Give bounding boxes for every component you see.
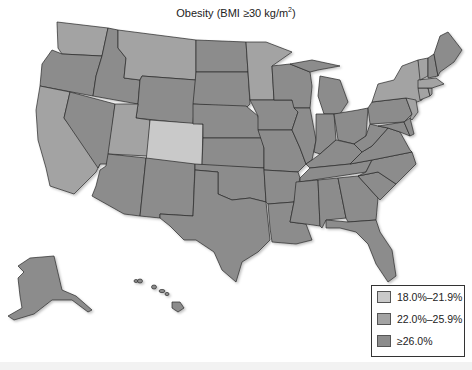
legend-swatch-light xyxy=(377,291,391,303)
legend-label-medium: 22.0%–25.9% xyxy=(397,313,462,325)
state-ak xyxy=(8,256,92,320)
state-wy xyxy=(136,76,196,124)
state-ny xyxy=(372,60,424,104)
legend-item-medium: 22.0%–25.9% xyxy=(372,308,464,330)
state-hi xyxy=(134,279,184,312)
state-wa xyxy=(57,22,108,56)
bottom-strip xyxy=(0,362,472,370)
state-fl xyxy=(326,220,396,282)
state-nd xyxy=(196,40,248,72)
legend-item-dark: ≥26.0% xyxy=(372,330,464,352)
state-me xyxy=(434,32,462,76)
legend-swatch-medium xyxy=(377,313,391,325)
legend-swatch-dark xyxy=(377,335,391,347)
state-ne xyxy=(193,104,262,138)
state-mi xyxy=(318,76,348,114)
state-ks xyxy=(202,138,264,168)
state-mt xyxy=(118,30,196,80)
legend-label-dark: ≥26.0% xyxy=(397,335,433,347)
legend-label-light: 18.0%–21.9% xyxy=(397,291,462,303)
legend-item-light: 18.0%–21.9% xyxy=(372,286,464,308)
state-ma xyxy=(418,78,444,88)
state-nm xyxy=(140,158,195,218)
state-co xyxy=(146,120,203,165)
state-sd xyxy=(193,72,250,108)
state-vt xyxy=(418,58,428,80)
map-legend: 18.0%–21.9% 22.0%–25.9% ≥26.0% xyxy=(371,285,465,357)
